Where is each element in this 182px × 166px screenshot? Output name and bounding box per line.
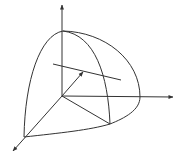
vector-arrow [62,72,83,96]
surface-top-right-edge [63,31,140,97]
surface-right-edge [110,97,140,124]
y-axis [13,96,62,151]
x-axis [62,96,173,97]
diagram-canvas [0,0,182,166]
surface-left-edge [24,31,63,137]
crossing-line [53,64,121,80]
base-segment [62,96,110,124]
surface-bottom-edge [24,124,110,137]
